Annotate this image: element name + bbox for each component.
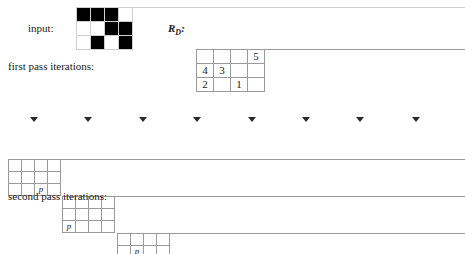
down-arrow-5 — [248, 117, 256, 122]
rd-cell-1-0: 4 — [197, 64, 214, 78]
rd-cell-2-0: 2 — [197, 78, 214, 92]
first-pass-1-cell-0-3 — [48, 160, 61, 172]
first-pass-2-cell-1-1 — [76, 209, 89, 221]
first-pass-1-cell-0-2 — [35, 160, 48, 172]
first-pass-3-cell-0-2 — [144, 234, 157, 246]
rd-cell-0-1 — [214, 50, 231, 64]
first-pass-3-cell-1-1: p — [131, 246, 144, 254]
first-pass-caption: first pass iterations: — [8, 60, 94, 72]
input-cell-2-2 — [105, 36, 119, 50]
input-cell-1-2 — [105, 22, 119, 36]
first-pass-2-cell-1-3 — [102, 209, 115, 221]
first-pass-3-cell-0-1 — [131, 234, 144, 246]
first-pass-3-cell-0-3 — [157, 234, 170, 246]
rd-cell-2-2: 1 — [231, 78, 248, 92]
input-cell-2-3 — [119, 36, 133, 50]
first-pass-3-cell-1-2 — [144, 246, 157, 254]
rd-cell-1-2 — [231, 64, 248, 78]
first-pass-1-cell-1-1 — [22, 172, 35, 184]
input-cell-0-3 — [119, 8, 133, 22]
rd-cell-1-1: 3 — [214, 64, 231, 78]
first-pass-1-cell-1-0 — [9, 172, 22, 184]
first-pass-1-cell-1-2 — [35, 172, 48, 184]
down-arrow-1 — [30, 117, 38, 122]
input-bitmap-grid — [76, 7, 465, 50]
input-cell-0-0 — [77, 8, 91, 22]
first-pass-3-cell-0-0 — [118, 234, 131, 246]
down-arrow-7 — [356, 117, 364, 122]
rd-cell-1-3 — [248, 64, 265, 78]
rd-matrix-label: RD: — [168, 22, 185, 37]
down-arrow-6 — [302, 117, 310, 122]
rd-matrix-grid: 54321 — [196, 49, 465, 92]
down-arrow-4 — [193, 117, 201, 122]
first-pass-2-cell-1-0 — [63, 209, 76, 221]
first-pass-2-cell-2-0: p — [63, 221, 76, 233]
first-pass-grid-3: pn r — [117, 233, 465, 254]
first-pass-3-cell-1-0 — [118, 246, 131, 254]
input-cell-2-0 — [77, 36, 91, 50]
input-label: input: — [28, 22, 54, 34]
second-pass-caption: second pass iterations: — [8, 190, 107, 202]
input-cell-0-2 — [105, 8, 119, 22]
first-pass-2-cell-2-1 — [76, 221, 89, 233]
rd-cell-0-2 — [231, 50, 248, 64]
input-cell-1-1 — [91, 22, 105, 36]
first-pass-1-cell-0-1 — [22, 160, 35, 172]
first-pass-2-cell-1-2 — [89, 209, 102, 221]
first-pass-2-cell-2-3 — [102, 221, 115, 233]
rd-cell-0-0 — [197, 50, 214, 64]
first-pass-2-cell-2-2 — [89, 221, 102, 233]
input-cell-1-0 — [77, 22, 91, 36]
input-cell-2-1 — [91, 36, 105, 50]
rd-cell-2-1 — [214, 78, 231, 92]
first-pass-1-cell-1-3 — [48, 172, 61, 184]
first-pass-grid-2: p — [62, 196, 465, 233]
down-arrow-2 — [84, 117, 92, 122]
first-pass-3-cell-1-3 — [157, 246, 170, 254]
down-arrow-3 — [139, 117, 147, 122]
first-pass-iteration-row: pppn rpn rprnp rnp — [0, 86, 465, 254]
first-pass-1-cell-0-0 — [9, 160, 22, 172]
rd-cell-2-3 — [248, 78, 265, 92]
input-cell-1-3 — [119, 22, 133, 36]
rd-label-colon: : — [181, 22, 185, 34]
input-cell-0-1 — [91, 8, 105, 22]
rd-cell-0-3: 5 — [248, 50, 265, 64]
down-arrow-8 — [412, 117, 420, 122]
